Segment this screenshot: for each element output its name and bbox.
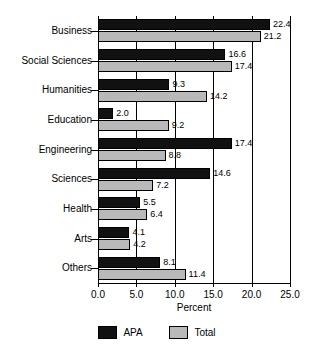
x-tick-label-10.0: 10.0	[155, 289, 195, 300]
bar-chart-figure: 22.421.216.617.49.314.22.09.217.48.814.6…	[0, 0, 314, 348]
category-label-sciences: Sciences	[0, 173, 92, 184]
category-label-business: Business	[0, 25, 92, 36]
bar-value-label: 8.8	[169, 150, 182, 161]
x-tick-label-0.0: 0.0	[78, 289, 118, 300]
tick-15.0	[213, 283, 214, 287]
x-tick-label-5.0: 5.0	[116, 289, 156, 300]
category-tick	[91, 239, 98, 240]
bar-apa	[98, 168, 210, 179]
bar-group: 14.67.2	[98, 168, 290, 191]
bar-value-label: 8.1	[163, 257, 176, 268]
bar-value-label: 22.4	[273, 19, 291, 30]
category-tick	[91, 268, 98, 269]
bar-value-label: 21.2	[264, 31, 282, 42]
bar-value-label: 17.4	[235, 61, 253, 72]
bar-group: 17.48.8	[98, 138, 290, 161]
chart-legend: APA Total	[0, 326, 314, 339]
bar-total	[98, 61, 232, 72]
category-label-humanities: Humanities	[0, 84, 92, 95]
bar-value-label: 11.4	[189, 269, 206, 280]
bar-value-label: 2.0	[116, 108, 129, 119]
bar-apa	[98, 257, 160, 268]
x-tick-label-25.0: 25.0	[270, 289, 310, 300]
legend-item-total: Total	[169, 326, 215, 339]
gridline-25.0	[290, 16, 291, 283]
bar-apa	[98, 79, 169, 90]
bar-apa	[98, 108, 113, 119]
bar-apa	[98, 227, 129, 238]
category-tick	[91, 120, 98, 121]
tick-10.0	[175, 283, 176, 287]
bar-group: 16.617.4	[98, 49, 290, 72]
x-axis-line	[98, 283, 290, 284]
x-tick-label-15.0: 15.0	[193, 289, 233, 300]
bar-group: 22.421.2	[98, 19, 290, 42]
legend-swatch-apa-icon	[98, 326, 117, 339]
bar-group: 5.56.4	[98, 197, 290, 220]
legend-swatch-total-icon	[169, 326, 188, 339]
bar-group: 9.314.2	[98, 79, 290, 102]
legend-label-apa: APA	[123, 327, 142, 338]
bar-value-label: 17.4	[235, 138, 253, 149]
category-label-education: Education	[0, 114, 92, 125]
bar-apa	[98, 138, 232, 149]
bar-total	[98, 120, 169, 131]
x-axis-title: Percent	[98, 302, 290, 313]
bar-value-label: 4.1	[132, 227, 145, 238]
category-tick	[91, 209, 98, 210]
category-label-health: Health	[0, 203, 92, 214]
plot-area: 22.421.216.617.49.314.22.09.217.48.814.6…	[98, 16, 290, 283]
bar-total	[98, 269, 186, 280]
tick-25.0	[290, 283, 291, 287]
bar-total	[98, 239, 130, 250]
bar-value-label: 7.2	[156, 180, 169, 191]
bar-total	[98, 150, 166, 161]
category-label-social-sciences: Social Sciences	[0, 55, 92, 66]
bar-group: 2.09.2	[98, 108, 290, 131]
bar-value-label: 9.3	[172, 79, 185, 90]
category-label-others: Others	[0, 262, 92, 273]
tick-0.0	[98, 283, 99, 287]
bar-total	[98, 180, 153, 191]
bar-apa	[98, 19, 270, 30]
bar-total	[98, 91, 207, 102]
category-tick	[91, 61, 98, 62]
tick-5.0	[136, 283, 137, 287]
bar-apa	[98, 49, 225, 60]
bar-value-label: 16.6	[228, 49, 246, 60]
bar-group: 8.111.4	[98, 257, 290, 280]
x-tick-label-20.0: 20.0	[232, 289, 272, 300]
bar-value-label: 9.2	[172, 120, 185, 131]
bar-value-label: 4.2	[133, 239, 146, 250]
bar-group: 4.14.2	[98, 227, 290, 250]
legend-label-total: Total	[194, 327, 215, 338]
category-tick	[91, 179, 98, 180]
bar-value-label: 6.4	[150, 209, 163, 220]
category-label-arts: Arts	[0, 233, 92, 244]
category-tick	[91, 31, 98, 32]
bar-total	[98, 31, 261, 42]
tick-20.0	[252, 283, 253, 287]
bar-value-label: 14.2	[210, 91, 228, 102]
category-tick	[91, 150, 98, 151]
category-label-engineering: Engineering	[0, 144, 92, 155]
bar-total	[98, 209, 147, 220]
bar-apa	[98, 197, 140, 208]
bar-value-label: 5.5	[143, 197, 156, 208]
legend-item-apa: APA	[98, 326, 142, 339]
category-tick	[91, 90, 98, 91]
bar-value-label: 14.6	[213, 168, 231, 179]
